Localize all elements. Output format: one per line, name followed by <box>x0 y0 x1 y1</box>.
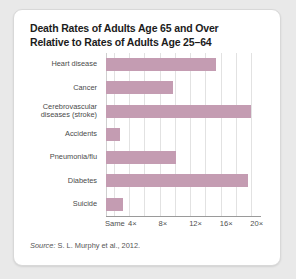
chart-title-line-1: Death Rates of Adults Age 65 and Over <box>30 22 219 34</box>
x-tick-label: 16× <box>220 219 233 228</box>
category-label-line: Diabetes <box>68 177 97 186</box>
x-axis-line <box>106 216 261 217</box>
category-label: Suicide <box>14 193 100 216</box>
bar-row <box>106 76 259 99</box>
bars-region <box>106 53 259 216</box>
x-tick-label: 20× <box>250 219 263 228</box>
bar <box>106 174 248 187</box>
bar <box>106 128 120 141</box>
bar-row <box>106 146 259 169</box>
category-axis-labels: Heart diseaseCancerCerebrovasculardiseas… <box>14 53 100 216</box>
x-axis-tick-labels: Same4×8×12×16×20× <box>106 219 266 231</box>
category-label-line: Cancer <box>73 84 97 93</box>
bar <box>106 198 123 211</box>
category-label: Accidents <box>14 123 100 146</box>
bar-row <box>106 123 259 146</box>
category-label: Diabetes <box>14 169 100 192</box>
bar <box>106 151 176 164</box>
category-label-line: Pneumonia/flu <box>50 153 97 162</box>
category-label-line: diseases (stroke) <box>41 111 97 120</box>
x-tick-label: 4× <box>128 219 137 228</box>
chart-card: Death Rates of Adults Age 65 and Over Re… <box>13 9 281 266</box>
source-caption: Source: S. L. Murphy et al., 2012. <box>30 241 140 250</box>
source-label: Source: <box>30 241 55 250</box>
bar-row <box>106 100 259 123</box>
chart-title-line-2: Relative to Rates of Adults Age 25–64 <box>30 36 268 50</box>
category-label: Pneumonia/flu <box>14 146 100 169</box>
bar <box>106 58 216 71</box>
bar <box>106 105 251 118</box>
bar-rows <box>106 53 259 216</box>
x-tick-label: 8× <box>159 219 168 228</box>
category-label-line: Suicide <box>73 200 97 209</box>
category-label: Cerebrovasculardiseases (stroke) <box>14 100 100 123</box>
bar-row <box>106 53 259 76</box>
bar-row <box>106 169 259 192</box>
category-label-line: Accidents <box>65 130 97 139</box>
chart-title: Death Rates of Adults Age 65 and Over Re… <box>30 22 268 49</box>
chart-plot-area: Heart diseaseCancerCerebrovasculardiseas… <box>14 53 281 233</box>
x-tick-label: Same <box>105 219 125 228</box>
x-tick-label: 12× <box>189 219 202 228</box>
category-label: Cancer <box>14 76 100 99</box>
category-label-line: Heart disease <box>51 60 97 69</box>
bar <box>106 81 173 94</box>
source-text: S. L. Murphy et al., 2012. <box>55 241 140 250</box>
category-label: Heart disease <box>14 53 100 76</box>
bar-row <box>106 193 259 216</box>
